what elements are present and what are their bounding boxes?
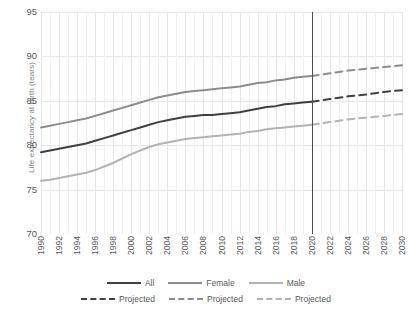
legend-swatch-projected-2 (257, 298, 291, 300)
projection-divider-line (312, 12, 313, 234)
series-line-projected-all (312, 90, 402, 102)
x-axis-tick: 2006 (181, 236, 190, 255)
x-axis-tick: 2000 (127, 236, 136, 255)
legend-label: All (145, 278, 154, 288)
plot-area (41, 12, 402, 234)
series-line-all (41, 102, 312, 153)
x-axis-tick: 2018 (290, 236, 299, 255)
x-axis-tick: 2012 (236, 236, 245, 255)
legend-label: Projected (207, 294, 243, 304)
legend-row-projected: ProjectedProjectedProjected (0, 291, 412, 307)
legend-swatch-actual-2 (249, 282, 283, 284)
x-axis-tick-labels: 1990199219941996199820002002200420062008… (41, 236, 402, 276)
x-axis-tick: 2014 (254, 236, 263, 255)
data-series-lines (41, 12, 402, 234)
legend-row-actual: AllFemaleMale (0, 275, 412, 291)
x-axis-tick: 2028 (380, 236, 389, 255)
chart-legend: AllFemaleMale ProjectedProjectedProjecte… (0, 275, 412, 311)
life-expectancy-chart: Life expectancy at birth (tears) 7075808… (0, 0, 412, 311)
legend-label: Projected (119, 294, 155, 304)
y-axis-tick-labels: 707580859095 (4, 0, 37, 311)
series-line-projected-male (312, 114, 402, 125)
x-axis-tick: 2004 (163, 236, 172, 255)
x-axis-tick: 2022 (326, 236, 335, 255)
x-axis-tick: 2026 (362, 236, 371, 255)
x-axis-tick: 2020 (308, 236, 317, 255)
x-axis-tick: 2010 (218, 236, 227, 255)
y-axis-tick: 85 (11, 96, 37, 106)
x-axis-tick: 1998 (109, 236, 118, 255)
series-line-female (41, 76, 312, 128)
x-axis-tick: 2016 (272, 236, 281, 255)
legend-item-actual-0[interactable]: All (107, 278, 154, 288)
x-axis-tick: 1994 (73, 236, 82, 255)
x-axis-tick: 1992 (55, 236, 64, 255)
legend-swatch-projected-0 (81, 298, 115, 300)
legend-item-actual-2[interactable]: Male (249, 278, 305, 288)
x-axis-tick: 2030 (398, 236, 407, 255)
legend-label: Female (206, 278, 234, 288)
vertical-gridline (402, 12, 403, 234)
y-axis-tick: 80 (11, 140, 37, 150)
y-axis-tick: 95 (11, 7, 37, 17)
x-axis-tick: 2024 (344, 236, 353, 255)
legend-swatch-projected-1 (169, 298, 203, 300)
y-axis-tick: 75 (11, 185, 37, 195)
legend-item-projected-2[interactable]: Projected (257, 294, 331, 304)
legend-item-projected-1[interactable]: Projected (169, 294, 243, 304)
y-axis-tick: 70 (11, 229, 37, 239)
x-axis-tick: 2008 (199, 236, 208, 255)
x-axis-tick: 2002 (145, 236, 154, 255)
legend-item-actual-1[interactable]: Female (168, 278, 234, 288)
legend-item-projected-0[interactable]: Projected (81, 294, 155, 304)
x-axis-tick: 1996 (91, 236, 100, 255)
series-line-male (41, 125, 312, 181)
legend-label: Male (287, 278, 305, 288)
series-line-projected-female (312, 65, 402, 76)
x-axis-tick: 1990 (37, 236, 46, 255)
legend-label: Projected (295, 294, 331, 304)
y-axis-tick: 90 (11, 52, 37, 62)
legend-swatch-actual-1 (168, 282, 202, 284)
legend-swatch-actual-0 (107, 282, 141, 284)
